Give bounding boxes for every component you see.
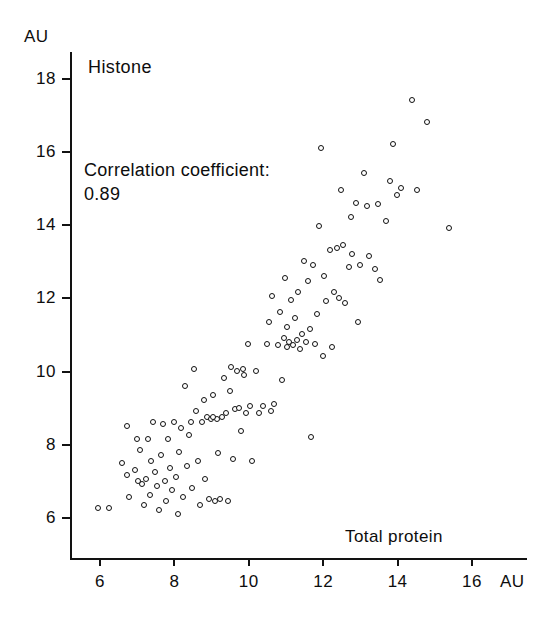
- data-point: [271, 401, 277, 407]
- data-point: [189, 485, 195, 491]
- data-point: [256, 410, 262, 416]
- data-point: [364, 203, 370, 209]
- data-point: [377, 277, 383, 283]
- data-point: [314, 311, 320, 317]
- data-point: [318, 145, 324, 151]
- data-point: [327, 247, 333, 253]
- data-point: [148, 458, 154, 464]
- data-point: [310, 262, 316, 268]
- data-point: [137, 447, 143, 453]
- data-point: [182, 383, 188, 389]
- data-point: [340, 242, 346, 248]
- data-point: [292, 315, 298, 321]
- data-point: [424, 119, 430, 125]
- data-point: [383, 218, 389, 224]
- data-point: [180, 494, 186, 500]
- data-point: [260, 403, 266, 409]
- data-point: [338, 187, 344, 193]
- data-point: [349, 251, 355, 257]
- data-point: [390, 141, 396, 147]
- data-point: [210, 392, 216, 398]
- data-point: [191, 366, 197, 372]
- data-point: [238, 428, 244, 434]
- data-point: [253, 368, 259, 374]
- data-point: [249, 458, 255, 464]
- data-point: [217, 496, 223, 502]
- data-point: [126, 494, 132, 500]
- data-point: [124, 472, 130, 478]
- data-point: [414, 187, 420, 193]
- data-point: [243, 410, 249, 416]
- data-point: [329, 344, 335, 350]
- data-point: [247, 403, 253, 409]
- data-point: [199, 419, 205, 425]
- data-point: [284, 324, 290, 330]
- data-point: [173, 474, 179, 480]
- data-point: [95, 505, 101, 511]
- data-point: [230, 456, 236, 462]
- data-point: [277, 309, 283, 315]
- data-point: [288, 297, 294, 303]
- data-point: [342, 300, 348, 306]
- data-point: [186, 432, 192, 438]
- data-point: [295, 289, 301, 295]
- data-point: [348, 214, 354, 220]
- data-point: [398, 185, 404, 191]
- data-point: [201, 397, 207, 403]
- data-point-layer: [0, 0, 551, 630]
- data-point: [119, 460, 125, 466]
- data-point: [215, 450, 221, 456]
- data-point: [188, 419, 194, 425]
- data-point: [210, 414, 216, 420]
- data-point: [156, 507, 162, 513]
- data-point: [361, 170, 367, 176]
- data-point: [195, 458, 201, 464]
- data-point: [197, 502, 203, 508]
- scatter-plot-figure: AU AU Histone Correlation coefficient: 0…: [0, 0, 551, 630]
- data-point: [394, 192, 400, 198]
- data-point: [106, 505, 112, 511]
- data-point: [134, 436, 140, 442]
- data-point: [145, 436, 151, 442]
- data-point: [132, 467, 138, 473]
- data-point: [184, 463, 190, 469]
- data-point: [223, 410, 229, 416]
- data-point: [357, 262, 363, 268]
- data-point: [178, 425, 184, 431]
- data-point: [264, 341, 270, 347]
- data-point: [266, 319, 272, 325]
- data-point: [446, 225, 452, 231]
- data-point: [301, 258, 307, 264]
- data-point: [346, 264, 352, 270]
- data-point: [290, 342, 296, 348]
- data-point: [269, 293, 275, 299]
- data-point: [320, 353, 326, 359]
- data-point: [307, 326, 313, 332]
- data-point: [150, 419, 156, 425]
- data-point: [202, 476, 208, 482]
- data-point: [163, 498, 169, 504]
- data-point: [372, 266, 378, 272]
- data-point: [409, 97, 415, 103]
- data-point: [167, 465, 173, 471]
- data-point: [141, 502, 147, 508]
- data-point: [299, 331, 305, 337]
- data-point: [294, 337, 300, 343]
- data-point: [331, 289, 337, 295]
- data-point: [147, 492, 153, 498]
- data-point: [279, 377, 285, 383]
- data-point: [312, 341, 318, 347]
- data-point: [158, 452, 164, 458]
- data-point: [241, 372, 247, 378]
- data-point: [236, 405, 242, 411]
- data-point: [245, 341, 251, 347]
- data-point: [282, 275, 288, 281]
- data-point: [171, 419, 177, 425]
- data-point: [175, 511, 181, 517]
- data-point: [366, 253, 372, 259]
- data-point: [176, 449, 182, 455]
- data-point: [281, 335, 287, 341]
- data-point: [387, 178, 393, 184]
- data-point: [124, 423, 130, 429]
- data-point: [193, 408, 199, 414]
